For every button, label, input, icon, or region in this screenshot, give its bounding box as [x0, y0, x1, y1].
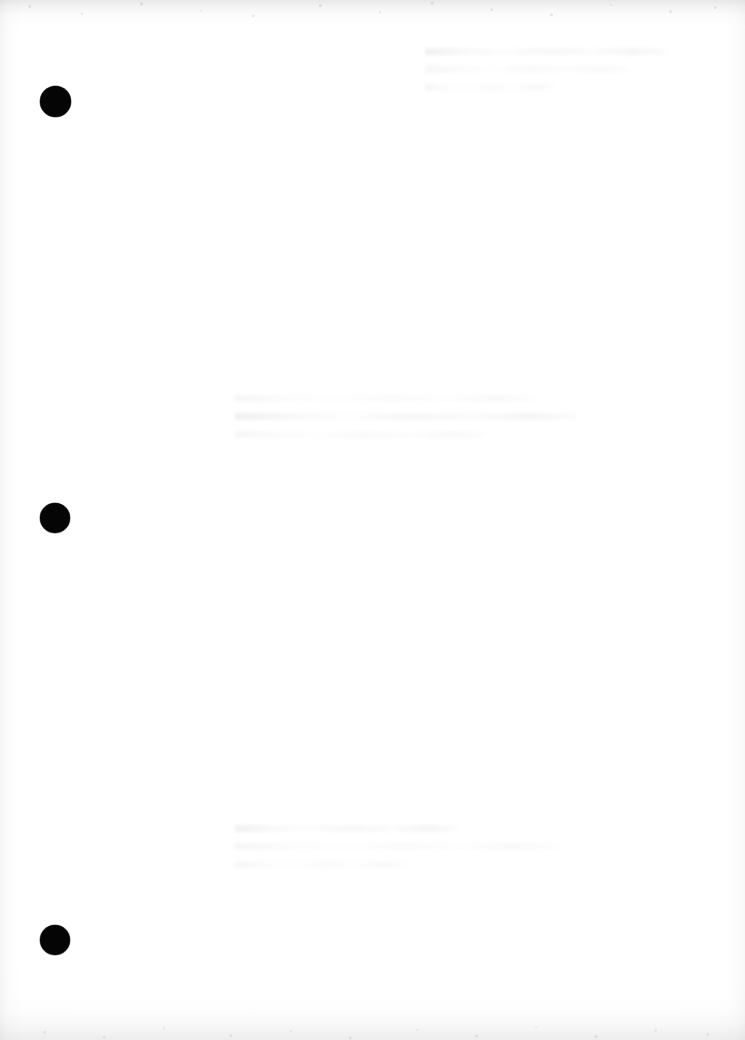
paper-background: [0, 0, 745, 1040]
punch-hole-bottom-icon: [40, 925, 70, 955]
punch-hole-top-icon: [40, 86, 71, 117]
scanned-page: [0, 0, 745, 1040]
punch-hole-middle-icon: [40, 503, 70, 533]
